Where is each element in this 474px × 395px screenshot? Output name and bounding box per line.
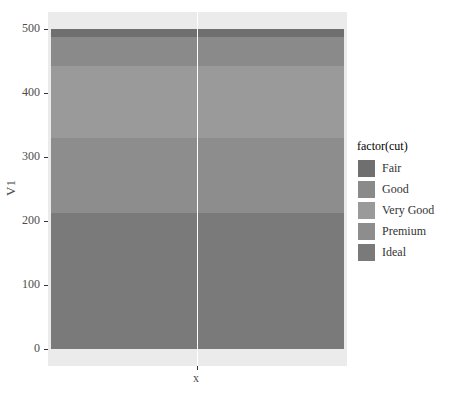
legend-item: Fair [357,158,434,179]
legend-swatch [357,180,376,199]
legend-swatch [357,201,376,220]
legend: factor(cut) FairGoodVery GoodPremiumIdea… [357,139,434,263]
legend-title: factor(cut) [357,139,434,154]
legend-swatch [357,222,376,241]
legend-label: Ideal [382,245,406,260]
grid-line [197,12,198,366]
legend-label: Fair [382,161,401,176]
legend-label: Good [382,182,409,197]
legend-item: Premium [357,221,434,242]
y-tick-label: 400 [0,85,40,100]
legend-swatch [357,159,376,178]
legend-item: Good [357,179,434,200]
y-axis-title: V1 [3,180,19,196]
y-tick-label: 500 [0,21,40,36]
y-tick [44,221,48,222]
y-tick-label: 200 [0,213,40,228]
legend-swatch [357,243,376,262]
y-tick [44,157,48,158]
y-tick [44,29,48,30]
y-tick [44,93,48,94]
legend-item: Ideal [357,242,434,263]
y-tick [44,285,48,286]
x-axis-title: x [193,371,199,386]
plot-panel [48,12,347,366]
legend-item: Very Good [357,200,434,221]
x-tick [197,366,198,370]
chart-root: 500 400 300 200 100 0 x V1 factor(cut) F… [0,0,474,395]
y-tick-label: 0 [0,341,40,356]
legend-label: Premium [382,224,426,239]
y-tick-label: 100 [0,277,40,292]
y-tick [44,349,48,350]
y-tick-label: 300 [0,149,40,164]
legend-label: Very Good [382,203,434,218]
